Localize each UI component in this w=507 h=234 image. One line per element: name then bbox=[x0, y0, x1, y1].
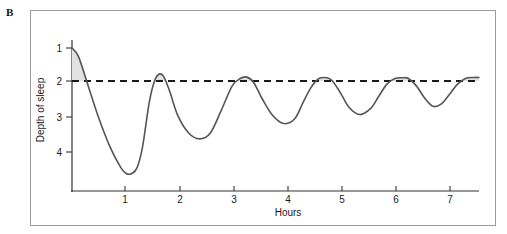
x-axis-title: Hours bbox=[275, 207, 302, 218]
x-tick-label-2: 2 bbox=[177, 194, 183, 205]
y-tick-label-3: 3 bbox=[56, 112, 62, 123]
x-tick-label-4: 4 bbox=[285, 194, 291, 205]
x-axis-ticks bbox=[125, 186, 450, 191]
rem-shading-area bbox=[72, 48, 479, 174]
x-tick-label-7: 7 bbox=[447, 194, 453, 205]
x-tick-label-1: 1 bbox=[122, 194, 128, 205]
y-tick-label-1: 1 bbox=[56, 43, 62, 54]
sleep-depth-chart: 1 2 3 4 Depth of sleep 1 2 3 4 5 6 7 Hou… bbox=[0, 0, 507, 234]
y-axis-ticks bbox=[66, 48, 72, 152]
x-tick-label-6: 6 bbox=[393, 194, 399, 205]
figure-container: B 1 2 3 4 Depth of sleep bbox=[0, 0, 507, 234]
x-tick-label-3: 3 bbox=[231, 194, 237, 205]
y-axis-title: Depth of sleep bbox=[35, 77, 46, 142]
sleep-depth-curve bbox=[72, 48, 479, 174]
y-tick-label-2: 2 bbox=[56, 76, 62, 87]
y-tick-label-4: 4 bbox=[56, 147, 62, 158]
rem-shaded-regions bbox=[72, 48, 479, 174]
x-tick-label-5: 5 bbox=[339, 194, 345, 205]
